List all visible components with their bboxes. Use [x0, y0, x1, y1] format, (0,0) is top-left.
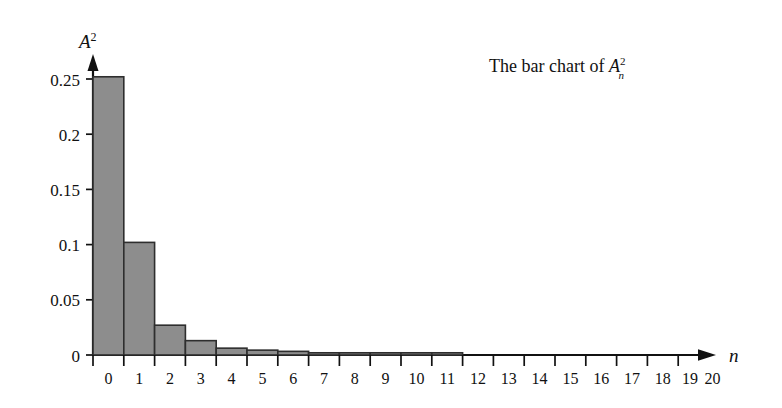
- bar-6: [278, 351, 309, 355]
- x-tick-label-8: 8: [351, 370, 359, 387]
- x-tick-label-12: 12: [470, 370, 486, 387]
- y-axis-label: A2: [77, 30, 97, 52]
- x-tick-label-18: 18: [655, 370, 671, 387]
- x-axis-tick-labels: 0 1 2 3 4 5 6 7 8 9 10 11 12 13 14 15 16…: [104, 370, 720, 387]
- bars-group: [93, 77, 463, 355]
- bar-9: [370, 353, 401, 355]
- y-tick-label-0: 0: [72, 347, 81, 366]
- bar-5: [247, 350, 278, 355]
- x-tick-label-9: 9: [382, 370, 390, 387]
- y-axis-arrow-icon: [88, 54, 99, 71]
- bar-0: [93, 77, 124, 355]
- x-tick-label-14: 14: [532, 370, 548, 387]
- bar-chart-figure: A2 The bar chart of A2n n 0: [0, 0, 782, 408]
- y-tick-label-4: 0.2: [59, 126, 80, 145]
- x-tick-label-10: 10: [408, 370, 424, 387]
- y-tick-label-3: 0.15: [50, 181, 80, 200]
- x-tick-label-3: 3: [197, 370, 205, 387]
- x-tick-label-6: 6: [289, 370, 297, 387]
- x-tick-label-15: 15: [562, 370, 578, 387]
- bar-2: [155, 325, 186, 355]
- x-tick-label-19: 19: [682, 370, 698, 387]
- x-tick-label-13: 13: [501, 370, 517, 387]
- x-tick-label-1: 1: [135, 370, 143, 387]
- x-tick-label-20: 20: [705, 370, 721, 387]
- x-tick-label-17: 17: [624, 370, 640, 387]
- y-tick-label-2: 0.1: [59, 236, 80, 255]
- bar-10: [401, 353, 432, 355]
- chart-title: The bar chart of A2n: [489, 55, 625, 81]
- y-tick-label-1: 0.05: [50, 291, 80, 310]
- bar-8: [339, 353, 370, 355]
- y-axis-tick-labels: 0 0.05 0.1 0.15 0.2 0.25: [50, 71, 80, 366]
- x-tick-label-7: 7: [320, 370, 328, 387]
- x-tick-label-2: 2: [166, 370, 174, 387]
- x-axis-ticks: [93, 355, 678, 366]
- x-tick-label-0: 0: [104, 370, 112, 387]
- bar-7: [309, 353, 340, 355]
- x-tick-label-11: 11: [439, 370, 454, 387]
- x-tick-label-5: 5: [258, 370, 266, 387]
- bar-4: [216, 348, 247, 355]
- x-axis-label: n: [729, 345, 739, 366]
- x-tick-label-16: 16: [593, 370, 609, 387]
- bar-3: [185, 341, 216, 355]
- x-tick-label-4: 4: [228, 370, 236, 387]
- bar-1: [124, 242, 155, 355]
- y-tick-label-5: 0.25: [50, 71, 80, 90]
- x-axis-arrow-icon: [698, 349, 716, 361]
- bar-11: [432, 353, 463, 355]
- chart-canvas: A2 The bar chart of A2n n 0: [0, 0, 782, 408]
